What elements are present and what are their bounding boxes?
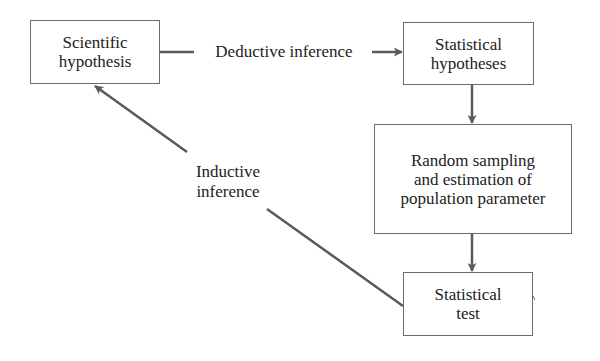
node-random-sampling: Random sampling and estimation of popula… xyxy=(374,124,572,234)
edge-label-inductive-inference: Inductive inference xyxy=(186,162,270,202)
node-text-line: and estimation of xyxy=(414,170,532,189)
node-text-line: Statistical xyxy=(435,35,502,54)
node-text-line: population parameter xyxy=(401,189,546,208)
node-statistical-hypotheses: Statistical hypotheses xyxy=(403,22,534,85)
edge-label-deductive-inference: Deductive inference xyxy=(197,42,371,62)
tick-mark xyxy=(533,296,535,300)
node-scientific-hypothesis: Scientific hypothesis xyxy=(30,20,160,84)
node-text-line: Random sampling xyxy=(411,151,535,170)
node-text-line: hypotheses xyxy=(431,54,507,73)
node-text-line: Statistical xyxy=(434,285,501,304)
node-text-line: Scientific xyxy=(62,33,127,52)
node-text-line: hypothesis xyxy=(59,52,132,71)
edge-label-line: Inductive xyxy=(186,162,270,182)
inductive-edge-upper-arrow xyxy=(95,86,187,152)
node-text-line: test xyxy=(456,304,480,323)
node-statistical-test: Statistical test xyxy=(403,272,533,336)
edge-label-line: inference xyxy=(186,182,270,202)
